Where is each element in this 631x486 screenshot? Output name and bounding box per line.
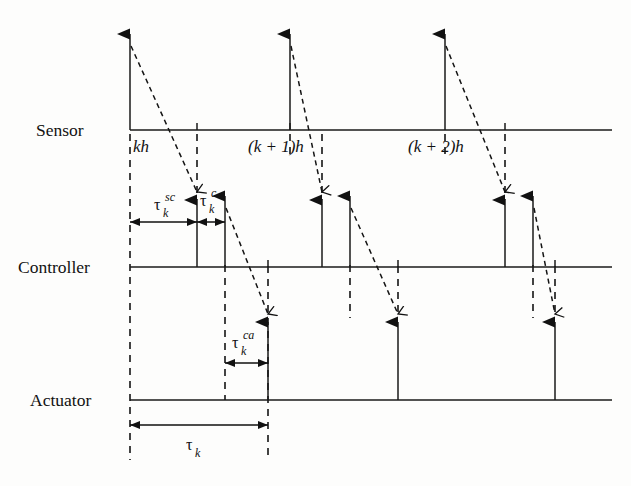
dimension-labels-group: τkscτkcτkcaτk <box>154 186 254 460</box>
controller-to-actuator-2 <box>351 208 398 314</box>
dimension-label-tau-total: τk <box>186 436 201 460</box>
controller-to-actuator-3 <box>534 208 555 314</box>
tau-superscript-tau-sc: sc <box>165 190 176 204</box>
timing-diagram-figure: SensorControllerActuator kh(k + 1)h(k + … <box>0 0 631 486</box>
dimension-label-tau-c: τkc <box>200 186 217 216</box>
sensor-to-controller-1 <box>131 46 197 192</box>
tau-symbol-tau-c: τ <box>200 192 207 209</box>
dimension-label-tau-sc: τksc <box>154 190 176 220</box>
event-arrows-group <box>130 34 555 400</box>
sensor-to-controller-2 <box>291 46 322 192</box>
lane-label-actuator: Actuator <box>30 390 91 410</box>
tick-label-k-plus-1-h: (k + 1)h <box>248 137 304 156</box>
tick-labels-group: kh(k + 1)h(k + 2)h <box>133 137 464 156</box>
tau-subscript-tau-sc: k <box>163 206 169 220</box>
lane-label-sensor: Sensor <box>36 120 84 140</box>
tau-symbol-tau-sc: τ <box>154 196 161 213</box>
tick-label-kh: kh <box>133 137 149 156</box>
guide-lines-group <box>130 134 555 460</box>
controller-to-actuator-1 <box>226 208 268 314</box>
lane-axes-group <box>130 130 612 400</box>
timing-diagram-canvas: SensorControllerActuator kh(k + 1)h(k + … <box>0 0 631 486</box>
tau-subscript-tau-total: k <box>195 446 201 460</box>
tau-superscript-tau-c: c <box>211 186 217 200</box>
lane-label-controller: Controller <box>18 257 90 277</box>
tau-symbol-tau-ca: τ <box>232 334 239 351</box>
tick-label-k-plus-2-h: (k + 2)h <box>408 137 464 156</box>
tau-subscript-tau-ca: k <box>241 344 247 358</box>
tau-subscript-tau-c: k <box>209 202 215 216</box>
lane-labels-group: SensorControllerActuator <box>18 120 91 410</box>
network-delay-arrows-group <box>131 46 555 314</box>
dimension-label-tau-ca: τkca <box>232 328 254 358</box>
tau-symbol-tau-total: τ <box>186 436 193 453</box>
sensor-to-controller-3 <box>446 46 505 192</box>
tau-superscript-tau-ca: ca <box>243 328 254 342</box>
dimension-lines-group <box>130 222 268 425</box>
